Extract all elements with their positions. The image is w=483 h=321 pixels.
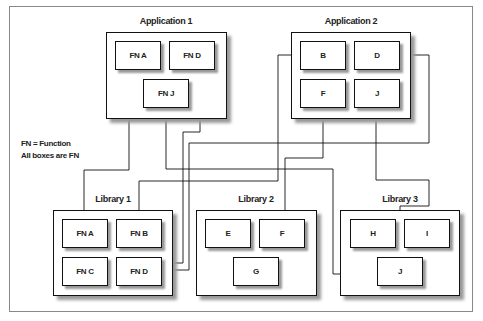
library-1-label: Library 1 [53,194,173,204]
app2-box-b: B [300,41,346,70]
app1-box-fn-d: FN D [169,41,215,70]
app2-box-j: J [354,79,400,108]
app1-box-fn-j: FN J [143,79,189,108]
app1-box-fn-a: FN A [115,41,161,70]
lib2-box-f: F [259,219,305,248]
legend-line-2: All boxes are FN [21,150,79,162]
app2-box-d: D [354,41,400,70]
app2-box-f: F [300,79,346,108]
lib1-box-fn-c: FN C [62,257,108,286]
lib3-box-i: I [404,219,450,248]
application-1-label: Application 1 [106,16,226,26]
lib1-box-fn-b: FN B [116,219,162,248]
legend: FN = Function All boxes are FN [21,138,79,162]
lib3-box-h: H [350,219,396,248]
lib2-box-e: E [205,219,251,248]
lib1-box-fn-d: FN D [116,257,162,286]
lib2-box-g: G [233,257,279,286]
lib3-box-j: J [377,257,423,286]
legend-line-1: FN = Function [21,138,79,150]
library-3-label: Library 3 [340,194,460,204]
application-2-label: Application 2 [291,16,411,26]
lib1-box-fn-a: FN A [62,219,108,248]
library-2-label: Library 2 [196,194,316,204]
